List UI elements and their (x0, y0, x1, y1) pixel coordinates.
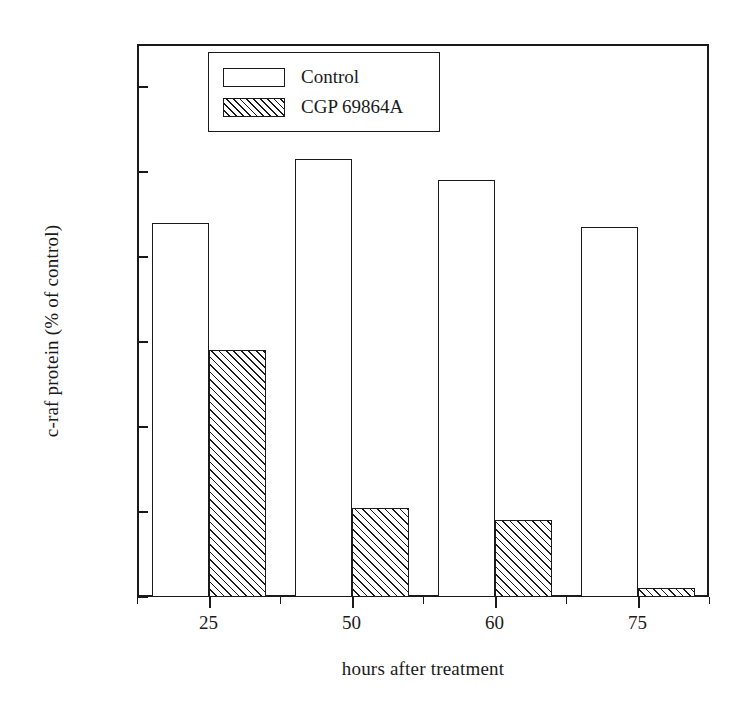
bar-control-60 (438, 180, 495, 597)
chart-legend: Control CGP 69864A (208, 52, 440, 132)
x-axis-title: hours after treatment (137, 658, 709, 680)
bar-control-50 (295, 159, 352, 597)
x-tick-minor (709, 597, 710, 604)
legend-label-cgp: CGP 69864A (301, 96, 403, 118)
x-tick-label: 25 (169, 612, 249, 634)
y-tick-mark (137, 86, 148, 88)
x-tick-minor (566, 597, 567, 604)
y-tick-mark (137, 426, 148, 428)
x-tick-label: 50 (312, 612, 392, 634)
y-tick-mark (137, 511, 148, 513)
bar-cgp-69864a-25 (209, 350, 266, 597)
y-tick-mark (137, 256, 148, 258)
legend-item-control: Control (223, 62, 439, 92)
x-tick-minor (137, 597, 138, 604)
x-tick-minor (423, 597, 424, 604)
x-tick-label: 60 (455, 612, 535, 634)
bar-cgp-69864a-75 (638, 588, 695, 597)
y-axis-title: c-raf protein (% of control) (41, 171, 63, 491)
legend-label-control: Control (301, 66, 359, 88)
bar-control-25 (152, 223, 209, 597)
x-tick-mark (638, 597, 640, 608)
y-tick-mark (137, 171, 148, 173)
x-tick-minor (280, 597, 281, 604)
legend-swatch-cgp (223, 98, 285, 117)
bar-cgp-69864a-50 (352, 508, 409, 597)
x-tick-mark (209, 597, 211, 608)
chart-figure: c-raf protein (% of control) hours after… (0, 0, 748, 706)
bar-control-75 (581, 227, 638, 597)
y-tick-mark (137, 341, 148, 343)
x-tick-mark (352, 597, 354, 608)
legend-swatch-control (223, 68, 285, 87)
bar-cgp-69864a-60 (495, 520, 552, 597)
x-tick-mark (495, 597, 497, 608)
y-tick-mark (137, 596, 148, 598)
legend-item-cgp: CGP 69864A (223, 92, 439, 122)
x-tick-label: 75 (598, 612, 678, 634)
